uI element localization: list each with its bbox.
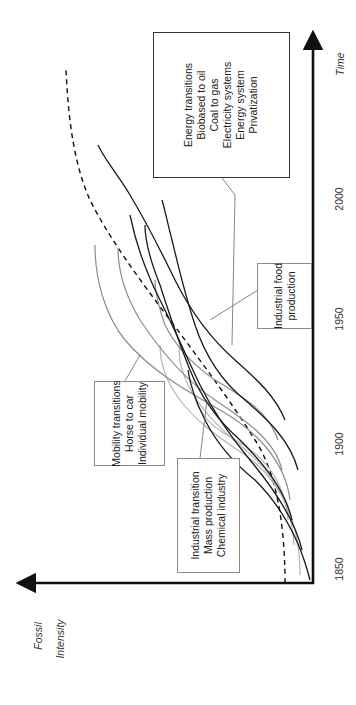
mobility-transitions-box: Mobility transitions Horse to car Indivi… <box>94 381 165 466</box>
energy-transitions-box: Energy transitions Biobased to oil Coal … <box>153 32 290 178</box>
intensity-label-fossil: Fossil <box>32 622 44 649</box>
energy-line-6: Privatization <box>248 76 261 133</box>
energy-line-2: Biobased to oil <box>196 71 209 140</box>
industrial-transition-box: Industrial transition Mass production Ch… <box>177 458 240 573</box>
mobility-line-1: Mobility transitions <box>110 380 123 466</box>
food-line-1: Industrial food <box>272 263 285 329</box>
tick-1950: 1950 <box>333 307 345 330</box>
tick-2000: 2000 <box>333 187 345 210</box>
tick-1900: 1900 <box>333 432 345 455</box>
tick-1850: 1850 <box>333 557 345 580</box>
energy-line-1: Energy transitions <box>183 63 196 147</box>
energy-line-3: Coal to gas <box>209 78 222 131</box>
industrial-food-box: Industrial food production <box>257 263 312 329</box>
food-line-2: production <box>285 271 298 320</box>
intensity-label-intensity: Intensity <box>54 619 66 658</box>
industrial-line-3: Chemical industry <box>215 474 228 557</box>
time-axis-label: Time <box>334 52 346 75</box>
energy-line-5: Energy system <box>235 70 248 139</box>
industrial-line-2: Mass production <box>202 477 215 554</box>
energy-line-4: Electricity systems <box>222 62 235 148</box>
mobility-line-2: Horse to car <box>123 395 136 452</box>
mobility-line-3: Individual mobility <box>136 382 149 465</box>
industrial-line-1: Industrial transition <box>189 471 202 559</box>
